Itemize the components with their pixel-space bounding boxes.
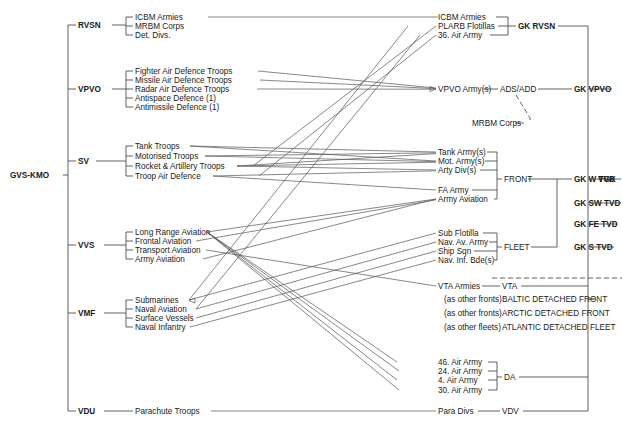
branch-tank-troops: Tank Troops [135,142,180,151]
org-chart-diagram: GVS-KMO RVSN ICBM Armies MRBM Corps Det.… [0,0,622,431]
formation-arty-divs: Arty Div(s) [438,166,476,175]
high-command-gk-fe-tvd: GK FE TVD [574,220,618,229]
branch-det-divs: Det. Divs. [135,31,171,40]
branch-surface-vessels: Surface Vessels [135,314,194,323]
service-stubs [68,25,76,411]
service-vvs: VVS Long Range Aviation Frontal Aviation… [78,228,211,264]
formation-nav-av-army: Nav. Av. Army [438,238,489,247]
command-vta: VTA [502,282,518,291]
service-label-rvsn: RVSN [78,21,101,30]
service-label-vvs: VVS [78,241,95,250]
command-atlantic-detached-fleet: ATLANTIC DETACHED FLEET [502,323,615,332]
service-vpvo: VPVO Fighter Air Defence Troops Missile … [78,67,232,112]
tvd-high-commands: GK SW TVD GK FE TVD GK S TVD [574,199,621,252]
branch-long-range-aviation: Long Range Aviation [135,228,211,237]
formation-nav-inf-bdes: Nav. Inf. Bde(s) [438,256,495,265]
group-vdv: Para Divs VDV [438,407,588,416]
formation-mot-armys: Mot. Army(s) [438,157,485,166]
formation-army-aviation: Army Aviation [438,195,488,204]
high-command-gk-sw-tvd: GK SW TVD [574,199,620,208]
branch-icbm-armies: ICBM Armies [135,13,183,22]
formation-36-air-army: 36. Air Army [438,31,483,40]
service-vmf: VMF Submarines Naval Aviation Surface Ve… [78,296,194,332]
formation-24-air-army: 24. Air Army [438,367,483,376]
formation-vta-armies: VTA Armies [438,282,480,291]
high-command-gk-s-tvd: GK S TVD [574,243,613,252]
branch-antispace-defence: Antispace Defence (1) [135,94,216,103]
command-fleet: FLEET [504,243,529,252]
command-baltic-detached-front: BALTIC DETACHED FRONT [502,295,607,304]
branch-rocket-artillery-troops: Rocket & Artillery Troops [135,162,225,171]
service-label-vmf: VMF [78,309,95,318]
branch-radar-ad-troops: Radar Air Defence Troops [135,85,229,94]
branch-motorised-troops: Motorised Troops [135,152,198,161]
service-sv: SV Tank Troops Motorised Troops Rocket &… [78,142,225,181]
command-ads-add: ADS/ADD [500,85,536,94]
branch-submarines: Submarines [135,296,179,305]
note-as-other-fronts-1: (as other fronts) [444,295,502,304]
formation-sub-flotilla: Sub Flotilla [438,229,479,238]
formation-fa-army: FA Army [438,186,469,195]
branch-frontal-aviation: Frontal Aviation [135,237,192,246]
group-da: 46. Air Army 24. Air Army 4. Air Army 30… [438,358,588,395]
branch-fighter-ad-troops: Fighter Air Defence Troops [135,67,232,76]
branch-missile-ad-troops: Missile Air Defence Troops [135,76,232,85]
command-mrbm-corps: MRBM Corps [472,119,521,128]
formation-tank-armys: Tank Army(s) [438,148,486,157]
formation-ship-sqn: Ship Sqn [438,247,472,256]
branch-naval-aviation: Naval Aviation [135,305,187,314]
branch-mrbm-corps: MRBM Corps [135,22,184,31]
command-arctic-detached-front: ARCTIC DETACHED FRONT [502,309,610,318]
note-as-other-fronts-2: (as other fronts) [444,309,502,318]
apex-label-vgk: VGK [598,175,616,184]
root-group: GVS-KMO [10,25,68,411]
group-front: Tank Army(s) Mot. Army(s) Arty Div(s) FA… [438,148,621,204]
high-command-gk-vpvo: GK VPVO [574,85,612,94]
group-gk-vpvo: VPVO Army(s) ADS/ADD GK VPVO MRBM Corps [438,85,612,128]
service-vdu: VDU Parachute Troops [78,407,200,416]
branch-troop-air-defence: Troop Air Defence [135,172,201,181]
branch-army-aviation: Army Aviation [135,255,185,264]
root-label: GVS-KMO [10,171,50,180]
command-vdv: VDV [502,407,519,416]
service-label-sv: SV [78,157,89,166]
service-rvsn: RVSN ICBM Armies MRBM Corps Det. Divs. [78,13,184,40]
formation-para-divs: Para Divs [438,407,474,416]
note-as-other-fleets: (as other fleets) [444,323,501,332]
command-front: FRONT [504,175,532,184]
formation-plarb-flotillas: PLARB Flotillas [438,22,495,31]
formation-46-air-army: 46. Air Army [438,358,483,367]
high-command-gk-rvsn: GK RVSN [518,22,555,31]
formation-30-air-army: 30. Air Army [438,386,483,395]
branch-transport-aviation: Transport Aviation [135,246,201,255]
branch-antimissile-defence: Antimissile Defence (1) [135,103,219,112]
diagram-canvas: GVS-KMO RVSN ICBM Armies MRBM Corps Det.… [0,0,622,431]
formation-icbm-armies: ICBM Armies [438,13,486,22]
group-vta-detached: VTA Armies VTA (as other fronts) BALTIC … [438,282,615,332]
service-label-vpvo: VPVO [78,85,101,94]
group-gk-rvsn: ICBM Armies PLARB Flotillas 36. Air Army… [438,13,588,40]
formation-vpvo-armys: VPVO Army(s) [438,85,491,94]
command-da: DA [504,373,516,382]
service-label-vdu: VDU [78,407,95,416]
branch-parachute-troops: Parachute Troops [135,407,200,416]
formation-4-air-army: 4. Air Army [438,376,478,385]
branch-naval-infantry: Naval Infantry [135,323,186,332]
